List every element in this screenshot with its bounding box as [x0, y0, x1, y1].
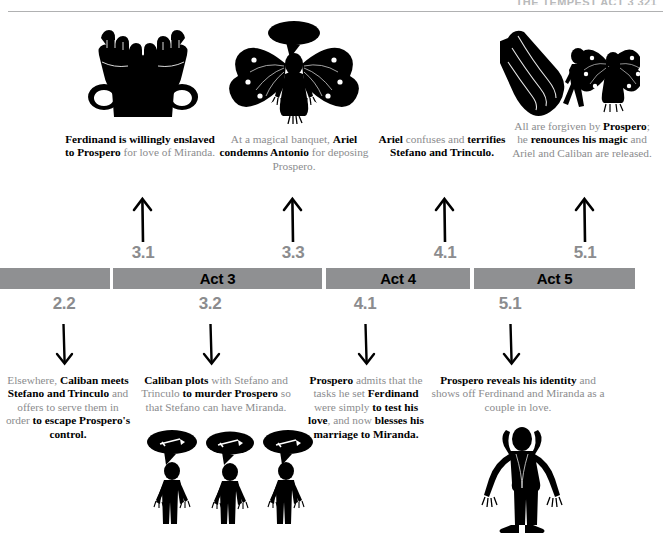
act-segment-3-label: Act 3: [200, 270, 236, 287]
above-blurb-0: Ferdinand is willingly enslaved to Prosp…: [64, 133, 216, 160]
below-blurb-0-period: .: [84, 428, 87, 440]
down-arrow-3: [499, 324, 525, 366]
up-arrow-0: [130, 196, 156, 242]
winged-ariel-speaking-icon: [228, 20, 360, 124]
above-blurb-3-muted-a: All are forgiven by: [514, 120, 603, 132]
shackled-fists-icon: [78, 22, 208, 122]
act-segment-2[interactable]: [0, 268, 110, 289]
above-blurb-3: All are forgiven by Prospero; he renounc…: [508, 120, 656, 160]
below-blurb-2-period: .: [416, 428, 419, 440]
below-blurb-2-muted-c: , and now: [328, 414, 375, 426]
act-timeline-bar: Act 3 Act 4 Act 5: [0, 268, 663, 289]
scene-number-above-2: 4.1: [425, 243, 465, 263]
down-arrow-0: [52, 324, 78, 366]
below-blurb-1-bold-b: to murder Prospero: [183, 387, 281, 399]
up-arrow-1: [280, 196, 306, 242]
below-blurb-2: Prospero admits that the tasks he set Fe…: [305, 374, 427, 441]
above-blurb-1: At a magical banquet, Ariel condemns Ant…: [218, 133, 370, 173]
act-segment-5-label: Act 5: [537, 270, 573, 287]
above-blurb-2-muted: confuses and: [406, 133, 468, 145]
act-segment-5[interactable]: Act 5: [474, 268, 635, 289]
scene-number-below-2: 4.1: [345, 294, 385, 314]
page-header: THE TEMPEST ACT 3 321: [0, 0, 663, 14]
below-blurb-2-muted-b: were simply: [314, 401, 372, 413]
scene-number-below-0: 2.2: [44, 294, 84, 314]
act-segment-4[interactable]: Act 4: [326, 268, 470, 289]
scene-number-above-1: 3.3: [273, 243, 313, 263]
scene-number-above-3: 5.1: [565, 243, 605, 263]
below-blurb-0-bold-b: to escape Prospero's control: [33, 414, 130, 439]
scene-number-below-3: 5.1: [490, 294, 530, 314]
scene-number-below-1: 3.2: [190, 294, 230, 314]
header-divider: [8, 11, 663, 12]
above-blurb-1-muted-a: At a magical banquet,: [231, 133, 333, 145]
above-blurb-2-period: .: [491, 146, 494, 158]
above-blurb-2: Ariel confuses and terrifies Stefano and…: [378, 133, 506, 160]
below-blurb-1: Caliban plots with Stefano and Trinculo …: [140, 374, 292, 414]
below-blurb-0-muted-a: Elsewhere,: [7, 374, 60, 386]
below-blurb-1-bold-a: Caliban plots: [144, 374, 211, 386]
below-blurb-3-bold: Prospero reveals his identity: [440, 374, 579, 386]
hand-releasing-figures-icon: [500, 20, 640, 124]
below-blurb-2-bold-a: Prospero: [310, 374, 356, 386]
down-arrow-1: [199, 324, 225, 366]
below-blurb-3: Prospero reveals his identity and shows …: [428, 374, 608, 414]
above-blurb-3-bold-b: renounces his magic: [531, 133, 631, 145]
above-blurb-0-muted: for love of Miranda.: [123, 146, 215, 158]
act-segment-4-label: Act 4: [380, 270, 416, 287]
down-arrow-2: [354, 324, 380, 366]
figure-arms-outstretched-icon: [470, 424, 574, 534]
above-blurb-3-bold-a: Prospero: [603, 120, 647, 132]
below-blurb-2-bold-b: Ferdinand: [368, 387, 419, 399]
below-blurb-0: Elsewhere, Caliban meets Stefano and Tri…: [4, 374, 132, 441]
up-arrow-3: [572, 196, 598, 242]
above-blurb-2-bold-a: Ariel: [378, 133, 405, 145]
three-plotters-with-dagger-bubbles-icon: [146, 428, 316, 530]
page-header-title: THE TEMPEST ACT 3 321: [516, 0, 657, 5]
act-segment-3[interactable]: Act 3: [113, 268, 322, 289]
up-arrow-2: [432, 196, 458, 242]
scene-number-above-0: 3.1: [123, 243, 163, 263]
